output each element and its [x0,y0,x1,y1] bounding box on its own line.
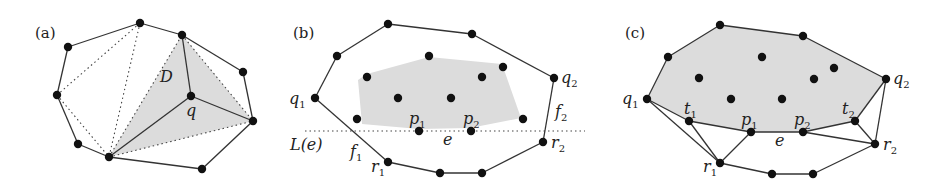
vertex-point [178,31,186,39]
vertex-point [384,158,392,166]
vertex-point [758,53,766,61]
solid-edge [57,95,78,144]
vertex-point [716,159,724,167]
vertex-label: f1 [349,142,362,163]
vertex-point [447,94,455,102]
vertex-point [353,115,361,123]
vertex-point [311,94,319,102]
panel-label: (c) [625,24,645,42]
solid-edge [720,132,751,163]
vertex-point [478,73,486,81]
vertex-label: f2 [554,102,567,123]
vertex-point [830,64,838,72]
solid-edge [109,157,202,169]
vertex-point [394,94,402,102]
solid-edge [57,47,68,95]
vertex-point [436,169,444,177]
panel-label: (b) [293,24,314,42]
dotted-edge [57,23,140,95]
vertex-point [249,117,257,125]
shaded-region [358,57,521,129]
vertex-point [539,138,547,146]
solid-edge [803,132,875,144]
vertex-point [136,19,144,27]
vertex-label: r2 [883,135,897,156]
vertex-point [468,30,476,38]
solid-edge [482,142,543,173]
panel-label: (a) [35,24,56,42]
figure-canvas: (a)Dq(b)q1q2f2p1p2eL(e)f1r1r2(c)q1q2t1t2… [0,0,943,195]
vertex-label: q2 [561,68,578,89]
vertex-label: q2 [893,69,910,90]
vertex-label: r1 [371,157,385,178]
vertex-point [882,75,890,83]
vertex-point [187,92,195,100]
vertex-point [74,140,82,148]
solid-edge [337,24,388,56]
vertex-point [105,153,113,161]
solid-edge [140,23,182,35]
vertex-point [333,52,341,60]
vertex-point [871,140,879,148]
vertex-point [64,43,72,51]
vertex-point [809,170,817,178]
dotted-edge [57,95,109,157]
vertex-point [799,32,807,40]
vertex-point [499,63,507,71]
solid-edge [388,24,472,34]
vertex-label: e [443,130,452,149]
vertex-point [768,170,776,178]
vertex-point [425,52,433,60]
vertex-point [478,169,486,177]
solid-edge [720,163,772,174]
vertex-point [778,95,786,103]
vertex-label: q1 [622,89,639,110]
vertex-point [53,91,61,99]
solid-edge [388,162,440,173]
panel-b: (b)q1q2f2p1p2eL(e)f1r1r2 [289,20,585,178]
vertex-point [716,21,724,29]
vertex-point [695,74,703,82]
shaded-region [109,35,253,157]
vertex-point [363,73,371,81]
panel-c: (c)q1q2t1t2p1p2er1r2 [622,21,910,178]
vertex-point [239,68,247,76]
vertex-label: e [775,131,784,150]
vertex-label: r1 [703,157,717,178]
vertex-point [643,95,651,103]
vertex-point [384,20,392,28]
solid-edge [68,23,140,47]
vertex-label: q1 [289,89,306,110]
panel-a: (a)Dq [35,19,257,173]
solid-edge [78,144,109,157]
vertex-point [198,165,206,173]
vertex-point [550,74,558,82]
vertex-point [810,75,818,83]
vertex-point [519,115,527,123]
vertex-label: L(e) [289,135,323,154]
region-label: D [159,67,173,86]
solid-edge [315,56,337,98]
point-label: q [186,101,196,120]
vertex-point [727,95,735,103]
vertex-label: r2 [551,133,565,154]
vertex-point [664,53,672,61]
solid-edge [813,144,875,174]
